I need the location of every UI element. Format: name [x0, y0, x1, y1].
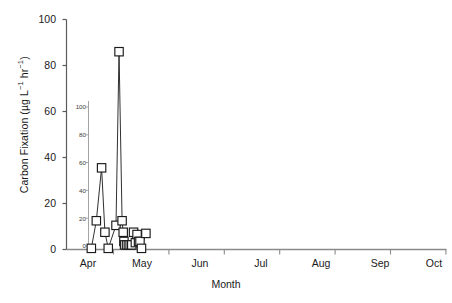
data-point-marker [118, 217, 126, 225]
x-tick-marks [114, 250, 446, 255]
data-point-marker [137, 244, 145, 252]
data-point-marker [115, 48, 123, 56]
data-point-marker [87, 244, 95, 252]
data-point-marker [92, 217, 100, 225]
data-point-marker [104, 244, 112, 252]
data-point-marker [101, 228, 109, 236]
data-point-marker [142, 229, 150, 237]
data-point-marker [97, 164, 105, 172]
plot-area [0, 0, 452, 303]
y-tick-marks-inner [86, 101, 89, 246]
figure-canvas: Carbon Fixation (µg L−1 hr−1) 100 80 60 … [0, 0, 452, 303]
data-point-marker [119, 228, 127, 236]
